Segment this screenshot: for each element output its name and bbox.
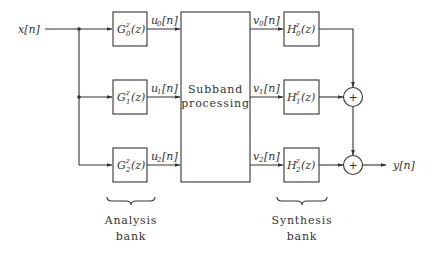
svg-text:z: z [295, 21, 300, 29]
synthesis-bank-label-2: bank [287, 230, 318, 243]
analysis-bank-label: Analysis [104, 214, 158, 227]
svg-text:(z): (z) [301, 159, 315, 172]
synthesis-filter-2: H z 2 (z) [284, 148, 319, 182]
svg-text:z: z [125, 21, 130, 29]
v0-label: v 0 [n] [253, 14, 280, 28]
svg-text:z: z [125, 157, 130, 165]
synthesis-brace [277, 197, 327, 205]
svg-text:G: G [117, 23, 126, 36]
adder-2: + [344, 156, 363, 175]
svg-text:(z): (z) [131, 159, 145, 172]
svg-text:1: 1 [296, 98, 300, 106]
svg-text:z: z [295, 157, 300, 165]
svg-text:(z): (z) [301, 91, 315, 104]
svg-text:1: 1 [126, 98, 130, 106]
svg-text:Subband: Subband [188, 83, 243, 96]
svg-text:[n]: [n] [162, 150, 178, 163]
svg-text:G: G [117, 159, 126, 172]
svg-text:z: z [295, 89, 300, 97]
svg-text:[n]: [n] [264, 150, 280, 163]
analysis-filter-2: G z 2 (z) [113, 148, 147, 182]
v1-label: v 1 [n] [253, 82, 280, 96]
analysis-bank-label-2: bank [116, 230, 147, 243]
analysis-filter-1: G z 1 (z) [113, 80, 147, 114]
synthesis-filter-0: H z 0 (z) [284, 12, 319, 46]
u0-label: u 0 [n] [151, 14, 178, 28]
svg-text:1: 1 [157, 88, 161, 96]
svg-text:[n]: [n] [162, 14, 178, 27]
junction-dot [77, 27, 81, 31]
svg-text:[n]: [n] [162, 82, 178, 95]
subband-processing-block: Subband processing [181, 12, 250, 182]
v2-label: v 2 [n] [253, 150, 280, 164]
input-signal-label: x[n] [18, 23, 41, 36]
analysis-brace [107, 197, 155, 205]
adder-1: + [344, 88, 363, 107]
svg-text:G: G [117, 91, 126, 104]
analysis-filter-0: G z 0 (z) [113, 12, 147, 46]
svg-text:(z): (z) [131, 23, 145, 36]
svg-text:1: 1 [259, 88, 263, 96]
svg-text:+: + [348, 91, 357, 104]
svg-text:(z): (z) [301, 23, 315, 36]
svg-text:processing: processing [181, 97, 250, 110]
u2-label: u 2 [n] [151, 150, 178, 164]
u1-label: u 1 [n] [151, 82, 178, 96]
svg-text:+: + [348, 159, 357, 172]
synthesis-bank-label: Synthesis [272, 214, 333, 227]
svg-text:z: z [125, 89, 130, 97]
svg-text:[n]: [n] [264, 82, 280, 95]
svg-text:(z): (z) [131, 91, 145, 104]
svg-text:[n]: [n] [264, 14, 280, 27]
output-signal-label: y[n] [392, 159, 416, 172]
filter-bank-diagram: x[n] G z 0 (z) G z 1 (z) G z 2 (z) u 0 [… [0, 0, 430, 254]
synthesis-filter-1: H z 1 (z) [284, 80, 319, 114]
